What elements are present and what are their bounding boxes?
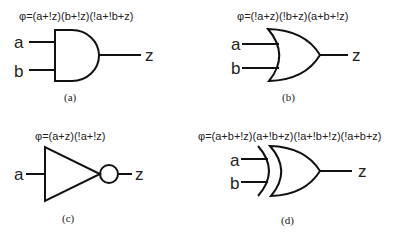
- or-formula: φ=(!a+z)(!b+z)(a+b+!z): [237, 10, 348, 22]
- and-formula: φ=(a+!z)(b+!z)(!a+!b+z): [19, 10, 133, 22]
- xor-caption: (d): [281, 214, 294, 227]
- and-input-b-label: b: [14, 62, 23, 81]
- and-input-a-label: a: [14, 33, 24, 52]
- not-output-z-label: z: [135, 165, 144, 184]
- xor-formula: φ=(a+b+!z)(a+!b+z)(!a+!b+!z)(!a+b+z): [198, 130, 382, 142]
- and-gate-icon: [55, 30, 99, 81]
- or-gate-icon: [268, 29, 320, 81]
- panel-xor-gate: φ=(a+b+!z)(a+!b+z)(!a+!b+!z)(!a+b+z) a b…: [198, 130, 382, 227]
- panel-not-gate: φ=(a+z)(!a+!z) a z (c): [14, 130, 144, 225]
- and-output-z-label: z: [145, 46, 154, 65]
- or-input-a-label: a: [231, 35, 241, 54]
- panel-or-gate: φ=(!a+z)(!b+z)(a+b+!z) a b z (b): [231, 10, 361, 104]
- panel-and-gate: φ=(a+!z)(b+!z)(!a+!b+z) a b z (a): [14, 10, 154, 104]
- not-formula: φ=(a+z)(!a+!z): [35, 130, 105, 142]
- logic-gates-figure: φ=(a+!z)(b+!z)(!a+!b+z) a b z (a) φ=(!a+…: [0, 0, 403, 239]
- xor-output-z-label: z: [358, 162, 367, 181]
- xor-gate-icon: [270, 146, 320, 196]
- xor-input-a-label: a: [230, 151, 240, 170]
- not-gate-bubble-icon: [100, 165, 118, 183]
- not-input-a-label: a: [14, 165, 24, 184]
- xor-input-b-label: b: [230, 174, 239, 193]
- or-output-z-label: z: [352, 46, 361, 65]
- xor-extra-curve-icon: [258, 146, 269, 196]
- or-caption: (b): [282, 91, 295, 104]
- not-caption: (c): [62, 212, 75, 225]
- not-gate-triangle-icon: [45, 147, 100, 201]
- and-caption: (a): [64, 91, 77, 104]
- or-input-b-label: b: [231, 59, 240, 78]
